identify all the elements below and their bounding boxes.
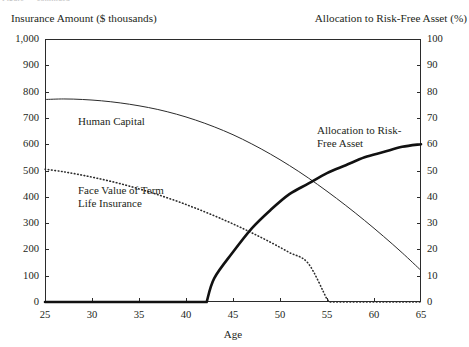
plot-area: 1,0009008007006005004003002001000 100908… xyxy=(45,39,421,302)
ticks-right-label: 50 xyxy=(427,165,438,176)
ticks-left-label: 500 xyxy=(23,165,39,176)
x-axis-tick-label: 30 xyxy=(87,310,98,321)
x-axis-tick-label: 45 xyxy=(228,310,239,321)
right-axis-title: Allocation to Risk-Free Asset (%) xyxy=(315,12,467,24)
ticks-left-label: 900 xyxy=(23,60,39,71)
ticks-right-label: 10 xyxy=(427,270,438,281)
x-axis-tick-label: 65 xyxy=(416,310,427,321)
ticks-left-label: 800 xyxy=(23,86,39,97)
ticks-left-label: 600 xyxy=(23,139,39,150)
ticks-left-label: 100 xyxy=(23,270,39,281)
ticks-right-label: 60 xyxy=(427,139,438,150)
x-axis-label: Age xyxy=(224,328,242,340)
ticks-left-label: 400 xyxy=(23,192,39,203)
x-axis-tick-label: 40 xyxy=(181,310,192,321)
x-axis-tick-label: 25 xyxy=(40,310,51,321)
ticks-right-label: 30 xyxy=(427,218,438,229)
ticks-left-label: 200 xyxy=(23,244,39,255)
ticks-right-label: 80 xyxy=(427,86,438,97)
ticks-right-label: 70 xyxy=(427,113,438,124)
ticks-left-label: 300 xyxy=(23,218,39,229)
ticks-right-label: 90 xyxy=(427,60,438,71)
x-axis-tick-label: 55 xyxy=(322,310,333,321)
ticks-right-label: 100 xyxy=(427,34,443,45)
series-label-allocation: Allocation to Risk- Free Asset xyxy=(317,124,401,149)
ticks-right-label: 0 xyxy=(427,297,432,308)
x-axis-tick-label: 60 xyxy=(369,310,380,321)
ticks-left-label: 1,000 xyxy=(15,34,39,45)
ticks-left-label: 700 xyxy=(23,113,39,124)
ticks-left-label: 0 xyxy=(34,297,39,308)
curve-allocation-risk-free-asset xyxy=(45,144,421,302)
curves-svg xyxy=(45,39,421,302)
ticks-right-label: 40 xyxy=(427,192,438,203)
figure-container: Figure — continued Insurance Amount ($ t… xyxy=(0,0,469,347)
left-axis-title: Insurance Amount ($ thousands) xyxy=(11,12,157,24)
series-label-human-capital: Human Capital xyxy=(78,115,145,128)
cropped-caption-fragment: Figure — continued xyxy=(2,0,70,1)
ticks-right-label: 20 xyxy=(427,244,438,255)
x-axis-tick-label: 35 xyxy=(134,310,145,321)
series-label-face-value: Face Value of Term Life Insurance xyxy=(78,184,164,209)
x-axis-tick-label: 50 xyxy=(275,310,286,321)
